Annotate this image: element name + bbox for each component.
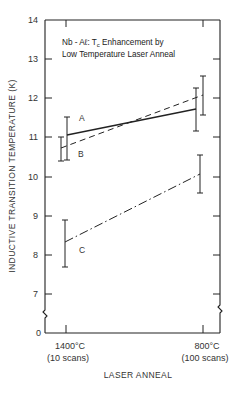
series-c-line — [65, 174, 200, 242]
series-b-error-bar-1400 — [58, 137, 64, 161]
series-a-error-bar-1400 — [64, 117, 70, 160]
series-b-label: B — [78, 149, 84, 159]
series-b-error-bar-800 — [200, 76, 206, 115]
x-tick-1400-temp: 1400°C — [55, 341, 86, 351]
y-tick-12: 12 — [28, 93, 38, 103]
y-tick-8: 8 — [33, 250, 38, 260]
y-tick-0: 0 — [36, 328, 41, 338]
series-a-label: A — [79, 113, 85, 123]
y-tick-9: 9 — [33, 211, 38, 221]
y-tick-14: 14 — [28, 15, 38, 25]
y-tick-10: 10 — [28, 172, 38, 182]
x-tick-labels: 1400°C (10 scans) 800°C (100 scans) — [47, 341, 229, 363]
annotation-line-2: Low Temperature Laser Anneal — [62, 50, 175, 59]
y-tick-11: 11 — [29, 132, 38, 142]
y-axis-title: INDUCTIVE TRANSITION TEMPERATURE (K) — [7, 79, 17, 272]
x-tick-800-temp: 800°C — [194, 341, 220, 351]
series-a — [64, 88, 199, 160]
y-tick-13: 13 — [28, 54, 38, 64]
y-tick-labels: 14 13 12 11 10 9 8 7 0 — [28, 15, 41, 338]
x-tick-1400-scans: (10 scans) — [47, 353, 89, 363]
series-c-error-bar-800 — [197, 155, 203, 193]
chart-figure: 14 13 12 11 10 9 8 7 0 Nb - Aℓ: Tc Enhan… — [0, 0, 241, 396]
y-tick-7: 7 — [33, 289, 38, 299]
x-tick-800-scans: (100 scans) — [181, 353, 228, 363]
series-c-error-bar-1400 — [62, 220, 68, 267]
annotation-line-1: Nb - Aℓ: Tc Enhancement by — [62, 38, 164, 48]
chart-annotation: Nb - Aℓ: Tc Enhancement by Low Temperatu… — [62, 38, 175, 59]
series-c-label: C — [79, 245, 85, 255]
plot-frame — [43, 20, 222, 333]
y-ticks — [45, 20, 220, 333]
x-axis-title: LASER ANNEAL — [104, 370, 173, 380]
